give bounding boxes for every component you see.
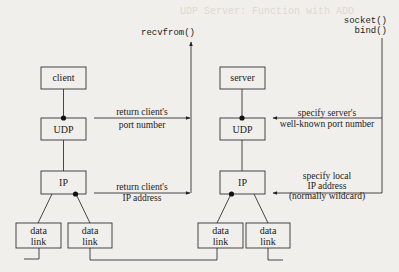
udp-server-binding-diagram: UDP Server: Function with ADD — [0, 0, 399, 272]
client-port-arrow-line1: return client's — [116, 107, 168, 117]
client-datalink-1-line1: data — [30, 225, 47, 236]
client-ip-arrow-line2: IP address — [123, 193, 162, 203]
client-udp-port-dot — [61, 115, 66, 120]
client-datalink-1-line2: link — [31, 236, 47, 247]
server-ip-addr-dot — [229, 191, 234, 196]
bind-label: bind() — [355, 26, 387, 36]
client-datalink-2-line2: link — [82, 236, 98, 247]
server-datalink-1-line1: data — [212, 225, 229, 236]
client-port-arrow-line2: port number — [119, 120, 167, 130]
socket-label: socket() — [344, 16, 387, 26]
server-udp-port-dot — [239, 115, 244, 120]
recvfrom-label: recvfrom() — [141, 28, 195, 38]
server-ip-label: IP — [238, 177, 247, 188]
client-ip-arrow-line1: return client's — [116, 182, 168, 192]
server-ip-arrow-line2: IP address — [308, 181, 347, 191]
background-bleed-text: UDP Server: Function with ADD — [180, 6, 354, 17]
client-ip-addr-dot — [73, 191, 78, 196]
client-datalink-2-line1: data — [82, 225, 99, 236]
server-port-arrow-line2: well-known port number — [280, 119, 375, 129]
server-app-label: server — [230, 72, 255, 83]
client-app-label: client — [52, 72, 74, 83]
server-ip-arrow-line3: (normally wildcard) — [289, 191, 365, 202]
server-port-arrow-line1: specify server's — [298, 108, 357, 118]
server-ip-arrow-line1: specify local — [303, 171, 352, 181]
server-udp-label: UDP — [232, 124, 252, 135]
client-ip-label: IP — [59, 177, 68, 188]
server-datalink-2-line2: link — [260, 236, 276, 247]
client-udp-label: UDP — [53, 124, 73, 135]
server-datalink-1-line2: link — [213, 236, 229, 247]
server-datalink-2-line1: data — [260, 225, 277, 236]
